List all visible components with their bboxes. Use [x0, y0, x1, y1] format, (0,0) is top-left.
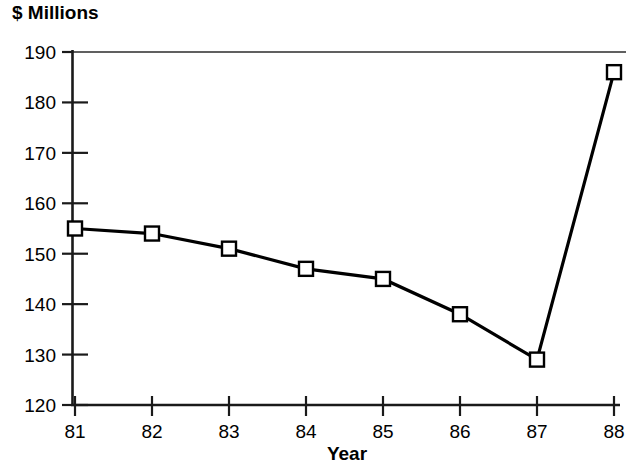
x-tick-label: 86 — [449, 421, 470, 442]
data-point-marker — [145, 227, 159, 241]
chart-container: $ Millions 120130140150160170180190 8182… — [0, 0, 626, 469]
x-tick-label: 82 — [141, 421, 162, 442]
data-series-line — [75, 72, 614, 359]
x-tick-label: 88 — [603, 421, 624, 442]
y-tick-label: 130 — [24, 345, 56, 366]
data-point-marker — [376, 272, 390, 286]
y-tick-label: 190 — [24, 42, 56, 63]
y-tick-label: 180 — [24, 92, 56, 113]
series-polyline — [75, 72, 614, 359]
x-tick-label: 87 — [526, 421, 547, 442]
y-axis-tick-labels: 120130140150160170180190 — [24, 42, 56, 416]
x-tick-label: 83 — [218, 421, 239, 442]
y-tick-label: 160 — [24, 193, 56, 214]
data-point-marker — [607, 65, 621, 79]
data-point-marker — [68, 222, 82, 236]
y-tick-label: 120 — [24, 395, 56, 416]
data-point-marker — [530, 353, 544, 367]
y-tick-label: 150 — [24, 244, 56, 265]
x-tick-label: 84 — [295, 421, 317, 442]
y-tick-label: 170 — [24, 143, 56, 164]
data-point-markers — [68, 65, 621, 366]
y-tick-label: 140 — [24, 294, 56, 315]
x-tick-label: 81 — [64, 421, 85, 442]
data-point-marker — [222, 242, 236, 256]
data-point-marker — [299, 262, 313, 276]
data-point-marker — [453, 307, 467, 321]
x-axis-title: Year — [0, 443, 626, 465]
line-chart-plot: 120130140150160170180190 818283848586878… — [0, 0, 626, 469]
x-axis-tick-labels: 8182838485868788 — [64, 421, 624, 442]
x-tick-label: 85 — [372, 421, 393, 442]
